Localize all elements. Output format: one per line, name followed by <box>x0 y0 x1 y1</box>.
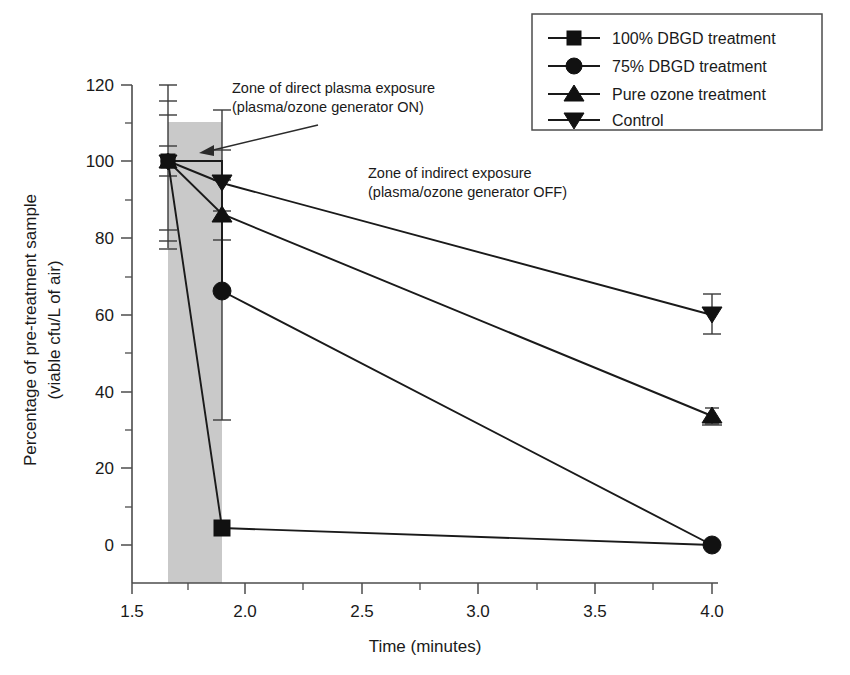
x-tick-label-3-5: 3.5 <box>583 602 607 621</box>
legend-label-75-dbgd: 75% DBGD treatment <box>612 58 767 75</box>
legend-label-control: Control <box>612 112 664 129</box>
annotation-indirect-line1: Zone of indirect exposure <box>368 165 532 181</box>
circle-marker-icon <box>566 58 582 74</box>
annotation-direct-line2: (plasma/ozone generator ON) <box>232 99 424 115</box>
y-tick-label-120: 120 <box>86 76 114 95</box>
marker-100-dbgd-t195 <box>214 520 230 536</box>
y-tick-label-60: 60 <box>95 306 114 325</box>
legend-label-100-dbgd: 100% DBGD treatment <box>612 30 776 47</box>
direct-exposure-zone-shading <box>168 122 222 583</box>
x-axis-major-ticks <box>132 583 712 594</box>
y-axis-major-ticks <box>121 85 132 545</box>
x-tick-label-2-0: 2.0 <box>233 602 257 621</box>
square-marker-icon <box>567 31 581 45</box>
y-tick-label-0: 0 <box>105 536 114 555</box>
marker-control-t400 <box>702 307 722 323</box>
legend-label-pure-ozone: Pure ozone treatment <box>612 86 766 103</box>
annotation-indirect-line2: (plasma/ozone generator OFF) <box>368 184 567 200</box>
y-axis-label-line1: Percentage of pre-treatment sample <box>21 194 40 466</box>
annotation-direct-line1: Zone of direct plasma exposure <box>232 80 435 96</box>
chart-figure: 120 100 80 60 40 20 0 1.5 2.0 2.5 3.0 3.… <box>0 0 850 675</box>
y-tick-label-100: 100 <box>86 152 114 171</box>
series-line-75-dbgd <box>168 161 712 545</box>
series-line-100-dbgd <box>168 161 712 545</box>
y-tick-label-20: 20 <box>95 459 114 478</box>
y-tick-label-80: 80 <box>95 229 114 248</box>
legend: 100% DBGD treatment 75% DBGD treatment P… <box>532 14 822 130</box>
marker-75-dbgd-t195 <box>213 282 231 300</box>
marker-75-dbgd-t400 <box>703 536 721 554</box>
x-tick-label-3-0: 3.0 <box>466 602 490 621</box>
x-tick-label-1-5: 1.5 <box>120 602 144 621</box>
x-tick-label-4-0: 4.0 <box>700 602 724 621</box>
marker-pure-ozone-t400 <box>702 407 722 423</box>
y-tick-label-40: 40 <box>95 383 114 402</box>
x-axis-minor-ticks <box>188 583 653 590</box>
markers-t175 <box>159 153 177 170</box>
x-tick-label-2-5: 2.5 <box>350 602 374 621</box>
x-axis-label: Time (minutes) <box>369 637 482 656</box>
y-axis-label-line2: (viable cfu/L of air) <box>45 260 64 399</box>
